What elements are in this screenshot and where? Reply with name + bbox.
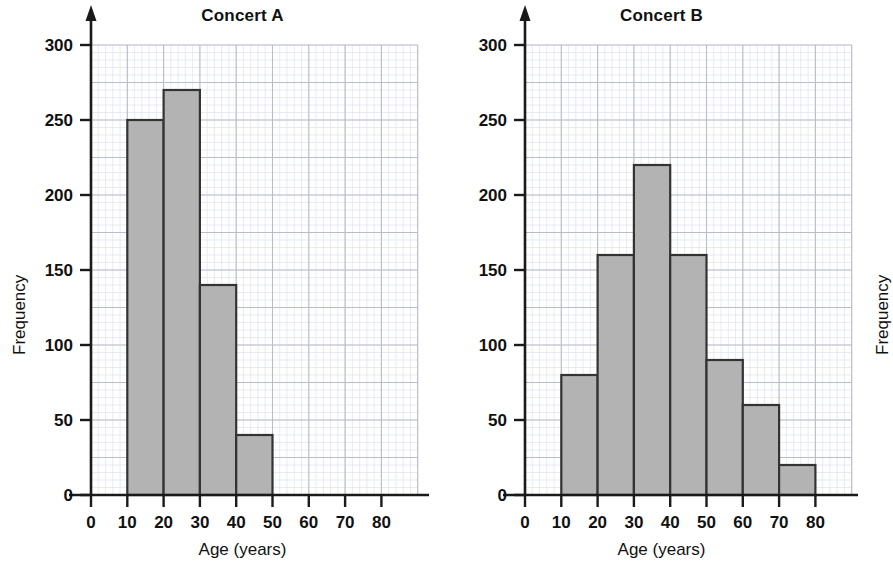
histogram-bar (561, 375, 597, 495)
histogram-bar (707, 360, 743, 495)
y-tick-label: 250 (45, 111, 73, 130)
histogram-bar (598, 255, 634, 495)
y-tick-label: 300 (45, 36, 73, 55)
y-axis-label-concert-b: Frequency (873, 275, 893, 355)
histogram-bar (670, 255, 706, 495)
histogram-bar (200, 285, 236, 495)
y-tick-label: 200 (45, 186, 73, 205)
y-tick-label: 200 (479, 186, 507, 205)
x-tick-label: 0 (520, 513, 529, 532)
x-tick-label: 40 (227, 513, 246, 532)
y-tick-label: 100 (479, 336, 507, 355)
x-tick-label: 10 (118, 513, 137, 532)
histogram-bar (236, 435, 272, 495)
x-tick-label: 70 (336, 513, 355, 532)
y-tick-label: 250 (479, 111, 507, 130)
x-tick-label: 30 (190, 513, 209, 532)
y-tick-label: 0 (498, 486, 507, 505)
axes (69, 5, 429, 501)
x-tick-label: 60 (299, 513, 318, 532)
x-tick-label: 20 (154, 513, 173, 532)
chart-panel-concert-a: Concert A Frequency Age (years) 05010015… (0, 0, 429, 576)
y-tick-label: 150 (479, 261, 507, 280)
y-tick-label: 100 (45, 336, 73, 355)
histogram-bar (634, 165, 670, 495)
x-tick-label: 80 (372, 513, 391, 532)
x-tick-label: 60 (733, 513, 752, 532)
y-tick-label: 150 (45, 261, 73, 280)
y-tick-label: 50 (54, 411, 73, 430)
histogram-bar (127, 120, 163, 495)
x-tick-label: 20 (588, 513, 607, 532)
x-tick-label: 40 (661, 513, 680, 532)
x-tick-label: 30 (624, 513, 643, 532)
plot-area-concert-b: 05010015020025030001020304050607080 (429, 0, 858, 576)
histogram-bar (779, 465, 815, 495)
y-tick-label: 300 (479, 36, 507, 55)
plot-area-concert-a: 05010015020025030001020304050607080 (0, 0, 429, 576)
chart-panel-concert-b: Concert B Frequency Age (years) 05010015… (429, 0, 858, 576)
histogram-bar (743, 405, 779, 495)
x-tick-label: 50 (697, 513, 716, 532)
x-tick-label: 80 (806, 513, 825, 532)
x-tick-label: 70 (770, 513, 789, 532)
x-tick-label: 50 (263, 513, 282, 532)
x-tick-label: 0 (86, 513, 95, 532)
y-tick-label: 50 (488, 411, 507, 430)
histogram-bar (164, 90, 200, 495)
x-tick-label: 10 (552, 513, 571, 532)
y-tick-label: 0 (64, 486, 73, 505)
